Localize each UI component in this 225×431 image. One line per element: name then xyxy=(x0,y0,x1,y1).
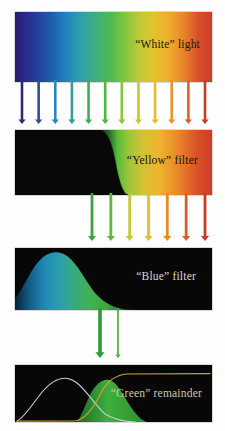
arrow-head xyxy=(145,236,153,241)
arrow-head xyxy=(88,236,96,241)
arrow-head xyxy=(201,236,209,241)
panel-white-light-label: “White” light xyxy=(135,38,200,50)
arrow-head xyxy=(135,120,142,125)
yellow-filter-curve xyxy=(15,130,212,195)
arrow-head xyxy=(185,120,192,125)
arrow-head xyxy=(85,120,92,125)
arrow-head xyxy=(126,236,134,241)
arrow-head xyxy=(107,236,115,241)
arrow-head xyxy=(52,120,59,125)
arrow-head xyxy=(163,236,171,241)
panel-white-light: “White” light xyxy=(15,12,212,82)
arrow-head xyxy=(102,120,109,125)
arrow-head xyxy=(68,120,75,125)
arrow-head xyxy=(18,120,25,125)
arrow-group-white-to-yellow xyxy=(0,80,225,126)
arrow-head xyxy=(115,355,121,359)
panel-yellow-filter: “Yellow” filter xyxy=(15,130,212,195)
panel-texture xyxy=(15,12,212,82)
arrow-group-yellow-to-blue xyxy=(0,193,225,243)
panel-green-remainder: “Green” remainder xyxy=(15,365,212,422)
arrow-head xyxy=(168,120,175,125)
arrow-head xyxy=(118,120,125,125)
color-filter-diagram: “White” light “Yellow” filter xyxy=(0,0,225,431)
arrow-group-blue-to-green xyxy=(0,308,225,360)
arrow-head xyxy=(201,120,208,125)
arrow-head xyxy=(182,236,190,241)
arrow-head xyxy=(35,120,42,125)
blue-filter-curve xyxy=(15,248,212,310)
arrow-head xyxy=(95,352,104,358)
arrow-head xyxy=(151,120,158,125)
green-remainder-curves xyxy=(15,365,212,422)
panel-blue-filter: “Blue” filter xyxy=(15,248,212,310)
